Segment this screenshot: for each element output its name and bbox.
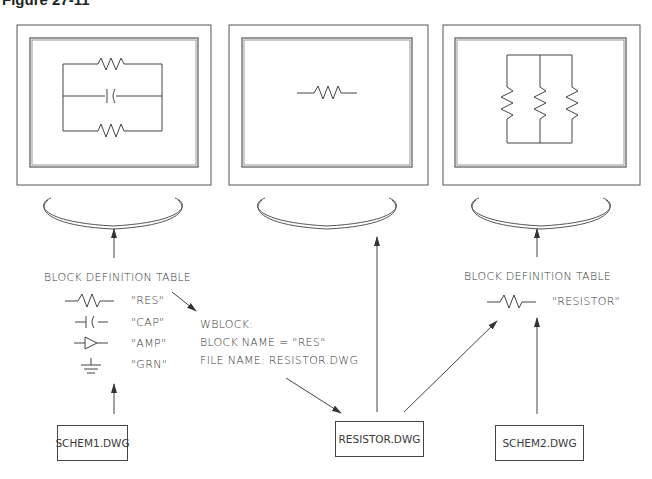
circuit-single-resistor xyxy=(297,86,357,99)
wblock-command: WBLOCK: xyxy=(200,318,253,331)
left-table-name-amp: "AMP" xyxy=(131,337,166,350)
circuit-three-parallel-resistors xyxy=(501,55,578,143)
left-table-symbols xyxy=(65,294,114,373)
monitor-middle xyxy=(229,25,428,229)
right-table-name-resistor: "RESISTOR" xyxy=(552,295,620,308)
file-box-schem2: SCHEM2.DWG xyxy=(495,425,584,461)
left-table-name-grn: "GRN" xyxy=(131,358,167,371)
arrow-wblock-to-resistor-file xyxy=(286,378,341,413)
monitor-left xyxy=(17,25,211,229)
file-box-resistor: RESISTOR.DWG xyxy=(335,421,424,457)
arrow-table-to-wblock xyxy=(172,292,196,311)
left-table-heading: BLOCK DEFINITION TABLE xyxy=(44,271,191,284)
file-box-schem1: SCHEM1.DWG xyxy=(57,425,128,461)
wblock-file-name: FILE NAME: RESISTOR.DWG xyxy=(200,354,358,367)
left-table-name-res: "RES" xyxy=(131,294,164,307)
amplifier-symbol xyxy=(74,337,108,349)
monitor-right xyxy=(443,25,640,229)
diagram-canvas xyxy=(0,0,652,479)
left-table-name-cap: "CAP" xyxy=(131,316,164,329)
right-table-heading: BLOCK DEFINITION TABLE xyxy=(464,270,611,283)
wblock-block-name: BLOCK NAME = "RES" xyxy=(200,336,326,349)
resistor-symbol xyxy=(65,294,114,307)
resistor-symbol-right xyxy=(487,295,536,308)
ground-symbol xyxy=(81,358,101,373)
circuit-parallel-rc xyxy=(63,58,162,137)
arrow-resistor-file-to-right-table xyxy=(404,321,497,412)
